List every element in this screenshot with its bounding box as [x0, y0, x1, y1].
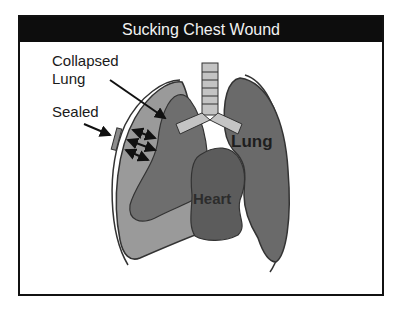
sealed-label: Sealed: [52, 103, 99, 121]
collapsed-lung-label: Collapsed Lung: [52, 52, 119, 88]
heart-label: Heart: [193, 190, 231, 208]
sealed-pointer-arrow: [84, 124, 110, 135]
lung-label: Lung: [231, 133, 273, 151]
chest-diagram: [0, 0, 400, 314]
collapsed-label-line2: Lung: [52, 70, 119, 88]
collapsed-label-line1: Collapsed: [52, 52, 119, 70]
